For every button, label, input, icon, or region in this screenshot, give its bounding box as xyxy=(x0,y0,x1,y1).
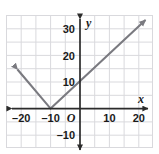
x-tick-label--20: –20 xyxy=(12,112,30,124)
origin-label: O xyxy=(67,111,76,125)
y-tick-label-10: 10 xyxy=(63,76,75,88)
x-tick-label--10: –10 xyxy=(41,112,59,124)
x-axis-label: x xyxy=(137,92,144,106)
y-tick-label--10: –10 xyxy=(57,129,75,141)
y-tick-label-20: 20 xyxy=(63,50,75,62)
coordinate-plane-svg: y x O –20 –10 10 20 30 20 10 –10 xyxy=(0,0,159,154)
x-tick-label-20: 20 xyxy=(133,112,145,124)
x-tick-label-10: 10 xyxy=(103,112,115,124)
y-tick-label-30: 30 xyxy=(63,23,75,35)
graph-figure: y x O –20 –10 10 20 30 20 10 –10 xyxy=(0,0,159,154)
y-axis-label: y xyxy=(84,16,92,30)
